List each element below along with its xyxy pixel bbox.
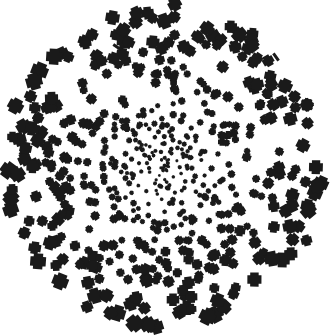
figure-canvas: Radial cross-glyph scatter pattern <box>0 0 334 336</box>
scatter-plot <box>0 0 334 336</box>
